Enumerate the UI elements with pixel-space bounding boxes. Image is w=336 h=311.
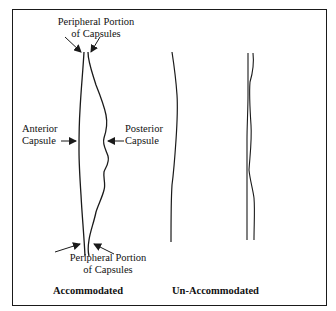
label-posterior-line1: Posterior (125, 123, 163, 135)
label-bottom-peripheral: Peripheral Portion of Capsules (56, 252, 160, 276)
capsule-diagram (0, 0, 336, 311)
label-anterior-line1: Anterior (22, 123, 58, 135)
unaccommodated-anterior-strand (247, 53, 248, 240)
label-bottom-peripheral-line2: of Capsules (56, 264, 160, 276)
caption-accommodated: Accommodated (53, 285, 123, 296)
label-top-peripheral-line2: of Capsules (44, 28, 148, 40)
label-anterior-capsule: Anterior Capsule (22, 123, 58, 147)
label-top-peripheral-line1: Peripheral Portion (44, 16, 148, 28)
label-bottom-peripheral-line1: Peripheral Portion (56, 252, 160, 264)
unaccommodated-posterior-strand (249, 53, 254, 240)
label-posterior-capsule: Posterior Capsule (125, 123, 163, 147)
accommodated-posterior-capsule (88, 52, 108, 256)
accommodated-anterior-capsule (79, 52, 85, 256)
arrow-bottom-left (55, 244, 80, 252)
label-posterior-line2: Capsule (125, 135, 163, 147)
label-top-peripheral: Peripheral Portion of Capsules (44, 16, 148, 40)
caption-unaccommodated: Un-Accommodated (172, 285, 259, 296)
label-anterior-line2: Capsule (22, 135, 58, 147)
unaccommodated-strand-left (171, 52, 177, 242)
